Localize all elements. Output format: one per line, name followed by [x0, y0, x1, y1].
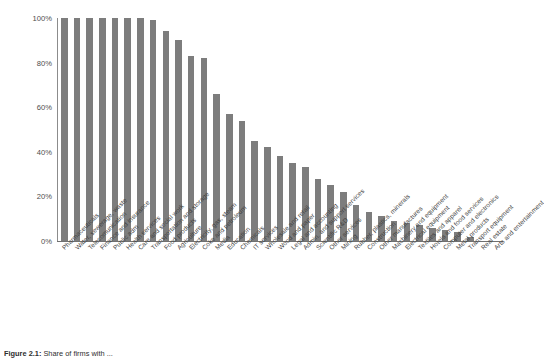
bar [302, 167, 309, 241]
bar [61, 18, 68, 241]
bar [239, 121, 246, 241]
bar [137, 18, 144, 241]
caption-text: Share of firms with ... [43, 349, 112, 358]
y-axis-tick-label: 100% [8, 14, 52, 23]
x-axis-line [57, 241, 503, 242]
bar [429, 228, 436, 241]
caption-label: Figure 2.1: [4, 349, 41, 358]
bar [442, 230, 449, 241]
plot-area [58, 18, 502, 241]
bar [416, 225, 423, 241]
figure-caption: Figure 2.1: Share of firms with ... [4, 349, 504, 360]
bar [124, 18, 131, 241]
y-axis-tick-label: 0% [8, 237, 52, 246]
bar [201, 58, 208, 241]
bar [454, 232, 461, 241]
bar [404, 223, 411, 241]
bar [340, 192, 347, 241]
bar [150, 20, 157, 241]
y-axis-tick-label: 60% [8, 103, 52, 112]
bar [74, 18, 81, 241]
bar [251, 141, 258, 241]
bar [86, 18, 93, 241]
bar [264, 147, 271, 241]
bar [99, 18, 106, 241]
bar [366, 212, 373, 241]
bar [378, 216, 385, 241]
y-axis-tick-label: 20% [8, 192, 52, 201]
bar [353, 205, 360, 241]
bar [391, 221, 398, 241]
bar [289, 163, 296, 241]
bar [467, 237, 474, 241]
bar [175, 40, 182, 241]
y-axis-tick-label: 40% [8, 147, 52, 156]
bar [213, 94, 220, 241]
bar [163, 31, 170, 241]
bar [315, 179, 322, 241]
bar [226, 114, 233, 241]
bar [327, 185, 334, 241]
bar [112, 18, 119, 241]
bar [188, 56, 195, 241]
bar [277, 156, 284, 241]
y-axis-tick-label: 80% [8, 58, 52, 67]
